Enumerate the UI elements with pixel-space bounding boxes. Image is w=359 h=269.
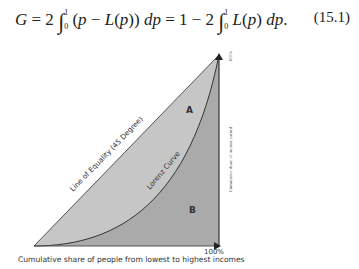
- y-100-label: 100%: [228, 51, 233, 62]
- y-axis-arrow-icon: [215, 53, 223, 60]
- y-axis-label: Cumulative share of income earned: [228, 126, 233, 192]
- region-a-label: A: [186, 105, 193, 115]
- region-b-label: B: [189, 205, 196, 215]
- x-axis-label: Cumulative share of people from lowest t…: [18, 255, 245, 264]
- lorenz-chart: Line of Equality (45 Degree) Lorenz Curv…: [0, 0, 359, 269]
